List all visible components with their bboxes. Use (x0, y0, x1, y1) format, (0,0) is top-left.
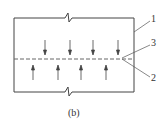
up-arrows (32, 65, 108, 80)
label-1: 1 (151, 14, 156, 24)
leader-2 (122, 59, 150, 77)
leader-3 (122, 45, 150, 58)
down-arrows (44, 40, 120, 55)
top-edge-break (14, 13, 134, 22)
label-2: 2 (151, 73, 156, 83)
diagram-canvas (0, 0, 167, 125)
leader-1 (134, 21, 150, 32)
figure-caption: (b) (68, 107, 80, 118)
leader-lines (122, 21, 150, 77)
box-outline (14, 13, 134, 96)
label-3: 3 (151, 38, 156, 48)
bottom-edge-break (14, 87, 134, 96)
